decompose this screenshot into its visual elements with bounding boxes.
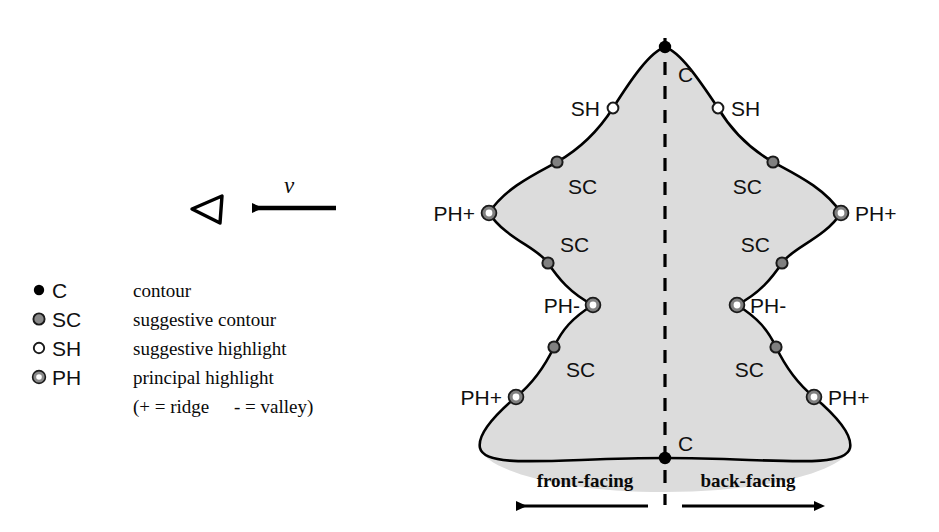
legend-code-sh: SH (52, 337, 81, 360)
suggestive-contour-dot-icon (33, 313, 44, 324)
suggestive-contour-dot-icon (542, 257, 553, 268)
legend-code-sc: SC (52, 308, 81, 331)
diagram-marker-label-sh-left: SH (571, 97, 600, 120)
diagram-marker-label-phplus-ur: PH+ (855, 202, 896, 225)
diagram-marker-phplus-ur: PH+ (834, 202, 897, 225)
suggestive-contour-dot-icon (548, 341, 559, 352)
suggestive-contour-dot-icon (770, 341, 781, 352)
legend-note-ridge: (+ = ridge (133, 396, 209, 418)
legend-code-c: C (52, 279, 67, 302)
suggestive-contour-dot-icon (776, 257, 787, 268)
contour-dot-icon (34, 285, 44, 295)
diagram-marker-label-phminus-r: PH- (750, 294, 786, 317)
legend: C contour SC suggestive contour SH sugge… (33, 279, 314, 418)
legend-row-contour: C contour (34, 279, 192, 302)
diagram-marker-label-sc-mr: SC (741, 233, 770, 256)
suggestive-highlight-dot-icon (713, 103, 724, 114)
diagram-marker-label-c-top: C (678, 63, 693, 86)
diagram-marker-label-c-bottom: C (678, 432, 693, 455)
diagram-marker-label-sh-right: SH (731, 97, 760, 120)
principal-highlight-core-icon (486, 210, 493, 217)
legend-row-suggestive-highlight: SH suggestive highlight (34, 337, 287, 360)
principal-highlight-core-icon (734, 302, 741, 309)
legend-row-suggestive-contour: SC suggestive contour (33, 308, 276, 331)
diagram-marker-label-phplus-ul: PH+ (434, 202, 475, 225)
legend-desc-suggestive-highlight: suggestive highlight (133, 338, 287, 359)
legend-desc-principal-highlight: principal highlight (133, 367, 275, 388)
diagram-marker-label-sc-ml: SC (560, 233, 589, 256)
contour-dot-icon (659, 452, 671, 464)
diagram-marker-label-sc-ur: SC (733, 175, 762, 198)
legend-desc-suggestive-contour: suggestive contour (133, 309, 277, 330)
front-facing-label: front-facing (537, 470, 634, 491)
back-facing-label: back-facing (701, 470, 797, 491)
view-triangle-icon (192, 196, 222, 223)
diagram-marker-label-sc-lr: SC (735, 358, 764, 381)
diagram-marker-label-sc-ll: SC (566, 358, 595, 381)
figure-canvas: v C contour SC suggestive contour SH sug… (0, 0, 939, 532)
contour-dot-icon (659, 41, 671, 53)
figure-svg: v C contour SC suggestive contour SH sug… (0, 0, 939, 532)
diagram-marker-label-phplus-ll: PH+ (461, 386, 502, 409)
legend-row-principal-highlight: PH principal highlight (33, 366, 275, 389)
diagram-marker-phplus-ul: PH+ (434, 202, 497, 225)
principal-highlight-core-icon (513, 394, 520, 401)
principal-highlight-core-icon (838, 210, 845, 217)
suggestive-contour-dot-icon (767, 156, 778, 167)
diagram-marker-label-phplus-lr: PH+ (828, 386, 869, 409)
diagram-marker-label-sc-ul: SC (568, 175, 597, 198)
legend-note: (+ = ridge - = valley) (133, 396, 313, 418)
legend-note-valley: - = valley) (234, 396, 313, 418)
suggestive-highlight-dot-icon (34, 343, 44, 353)
principal-highlight-dot-core (36, 374, 42, 380)
suggestive-contour-dot-icon (551, 156, 562, 167)
legend-code-ph: PH (52, 366, 81, 389)
legend-desc-contour: contour (133, 280, 192, 301)
suggestive-highlight-dot-icon (608, 103, 619, 114)
diagram-marker-label-phminus-l: PH- (544, 294, 580, 317)
principal-highlight-core-icon (811, 394, 818, 401)
viewer-group: v (192, 173, 336, 223)
silhouette-group (480, 38, 851, 505)
principal-highlight-core-icon (590, 302, 597, 309)
velocity-label: v (284, 173, 295, 198)
